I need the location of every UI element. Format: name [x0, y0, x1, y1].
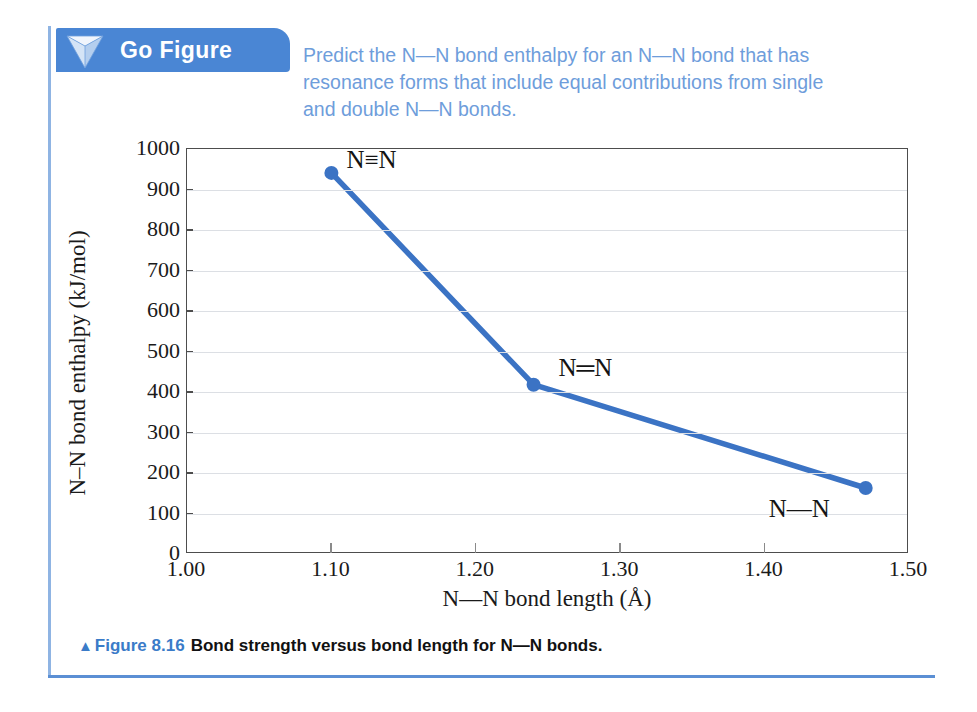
- x-axis-tick-mark: [475, 543, 477, 553]
- gridline: [187, 433, 907, 434]
- data-point-label: N≡N: [346, 146, 396, 174]
- x-axis-tick-label: 1.10: [311, 556, 350, 582]
- x-axis-tick-label: 1.40: [744, 556, 783, 582]
- gridline: [187, 311, 907, 312]
- caption-figure-number: Figure 8.16: [95, 636, 185, 655]
- y-axis-tick-label: 1000: [118, 137, 180, 159]
- y-axis-tick-label: 200: [118, 461, 180, 483]
- y-axis-tick-label: 300: [118, 421, 180, 443]
- gridline: [187, 190, 907, 191]
- x-axis-tick-mark: [619, 543, 621, 553]
- x-axis-tick-mark: [330, 543, 332, 553]
- caption-text: Bond strength versus bond length for N—N…: [191, 636, 603, 655]
- y-axis-tick-mark: [186, 391, 193, 393]
- data-point: [324, 166, 338, 180]
- caption-triangle-icon: ▲: [78, 637, 93, 654]
- y-axis-tick-label: 100: [118, 502, 180, 524]
- y-axis-tick-label: 400: [118, 380, 180, 402]
- y-axis-tick-mark: [186, 189, 193, 191]
- x-axis-tick-label: 1.20: [456, 556, 495, 582]
- y-axis-tick-label: 900: [118, 178, 180, 200]
- figure-bottom-rule: [48, 675, 935, 678]
- x-axis-tick-mark: [764, 543, 766, 553]
- y-axis-tick-mark: [186, 229, 193, 231]
- y-axis-tick-label: 700: [118, 259, 180, 281]
- x-axis-tick-label: 1.30: [600, 556, 639, 582]
- gridline: [187, 230, 907, 231]
- figure-caption: ▲Figure 8.16Bond strength versus bond le…: [78, 636, 602, 656]
- y-axis-tick-mark: [186, 351, 193, 353]
- data-point-label: N═N: [559, 354, 613, 382]
- y-axis-tick-mark: [186, 270, 193, 272]
- y-axis-tick-labels: 01002003004005006007008009001000: [116, 148, 180, 553]
- data-point: [859, 481, 873, 495]
- chart: N–N bond enthalpy (kJ/mol) 0100200300400…: [0, 0, 977, 620]
- y-axis-tick-label: 600: [118, 299, 180, 321]
- gridline: [187, 392, 907, 393]
- y-axis-tick-label: 800: [118, 218, 180, 240]
- data-point-label: N—N: [769, 495, 830, 523]
- data-markers: [324, 166, 872, 495]
- y-axis-title: N–N bond enthalpy (kJ/mol): [65, 163, 91, 563]
- y-axis-tick-mark: [186, 513, 193, 515]
- y-axis-tick-mark: [186, 472, 193, 474]
- gridline: [187, 473, 907, 474]
- x-axis-tick-label: 1.00: [167, 556, 206, 582]
- plot-area: [186, 148, 908, 553]
- y-axis-tick-label: 500: [118, 340, 180, 362]
- x-axis-title: N—N bond length (Å): [186, 586, 908, 612]
- y-axis-tick-mark: [186, 310, 193, 312]
- gridline: [187, 352, 907, 353]
- x-axis-tick-labels: 1.001.101.201.301.401.50: [186, 556, 908, 586]
- x-axis-tick-label: 1.50: [889, 556, 928, 582]
- gridline: [187, 271, 907, 272]
- data-line: [331, 173, 865, 488]
- y-axis-tick-mark: [186, 432, 193, 434]
- data-point: [527, 378, 541, 392]
